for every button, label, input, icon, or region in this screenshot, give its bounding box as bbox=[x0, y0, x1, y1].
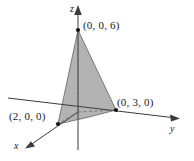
z-axis-arrowhead bbox=[74, 5, 82, 15]
x-axis-label: x bbox=[14, 141, 18, 151]
vertex-marker-z bbox=[76, 28, 80, 32]
y-axis-arrowhead bbox=[170, 115, 180, 122]
point-label-2-0-0: (2, 0, 0) bbox=[9, 111, 46, 122]
point-label-0-3-0: (0, 3, 0) bbox=[117, 97, 154, 108]
vertex-marker-x bbox=[56, 122, 60, 126]
three-d-plane-figure: z y x (0, 0, 6) (0, 3, 0) (2, 0, 0) bbox=[0, 0, 194, 161]
vertex-marker-y bbox=[114, 108, 118, 112]
z-axis-label: z bbox=[70, 4, 74, 14]
y-axis-label: y bbox=[170, 124, 174, 134]
point-label-0-0-6: (0, 0, 6) bbox=[83, 20, 120, 31]
